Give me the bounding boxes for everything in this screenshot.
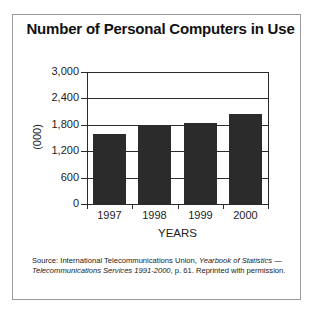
- y-tick-label: 0: [35, 197, 79, 209]
- source-note: Source: International Telecommunications…: [32, 256, 290, 277]
- gridline: [81, 98, 269, 99]
- y-tick-label: 3,000: [35, 65, 79, 77]
- x-tick-label: 2000: [223, 209, 268, 221]
- x-tick-label: 1997: [87, 209, 132, 221]
- x-tick-label: 1998: [132, 209, 177, 221]
- y-tick-label: 1,800: [35, 118, 79, 130]
- x-tick-mark: [223, 204, 224, 209]
- plot-right-edge: [268, 72, 269, 208]
- y-tick-label: 1,200: [35, 144, 79, 156]
- gridline: [81, 204, 269, 205]
- bar-1998: [138, 125, 171, 204]
- gridline: [81, 72, 269, 73]
- chart-title: Number of Personal Computers in Use: [0, 20, 321, 37]
- x-tick-label: 1999: [178, 209, 223, 221]
- source-prefix: Source: International Telecommunications…: [32, 256, 199, 265]
- x-tick-mark: [178, 204, 179, 209]
- x-tick-mark: [132, 204, 133, 209]
- source-suffix: , p. 61. Reprinted with permission.: [171, 266, 286, 275]
- y-tick-label: 600: [35, 171, 79, 183]
- x-axis-label: YEARS: [87, 227, 268, 239]
- y-axis-line: [87, 72, 88, 208]
- x-tick-mark: [268, 204, 269, 209]
- bar-2000: [229, 114, 262, 204]
- x-tick-mark: [87, 204, 88, 209]
- bar-1997: [93, 134, 126, 204]
- y-tick-label: 2,400: [35, 91, 79, 103]
- bar-1999: [184, 123, 217, 204]
